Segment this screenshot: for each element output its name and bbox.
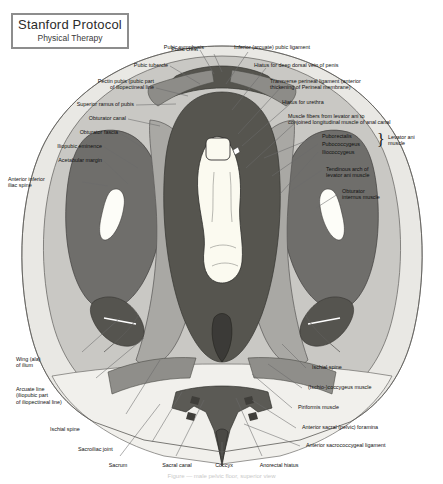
label-anterior-sacrococcygeal-ligament: Anterior sacrococcygeal ligament <box>306 442 442 448</box>
label-ischio-coccygeus-muscle: (Ischio-)coccygeus muscle <box>308 384 432 390</box>
label-anterior-sacral-foramina: Anterior sacral (pelvic) foramina <box>302 424 434 430</box>
levator-ani-brace: } <box>377 132 385 148</box>
label-inferior-arcuate-pubic-ligament: Inferior (arcuate) pubic ligament <box>234 44 394 50</box>
label-transverse-perineal-ligament: Transverse perineal ligament (anterior t… <box>270 78 442 91</box>
label-superior-ramus-of-pubis: Superior ramus of pubis <box>28 101 134 107</box>
label-pubic-tubercle: Pubic tubercle <box>66 62 168 68</box>
pelvic-floor-illustration <box>0 0 443 484</box>
label-anorectal-hiatus: Anorectal hiatus <box>246 462 312 468</box>
brand-title-box: Stanford Protocol Physical Therapy <box>11 13 129 49</box>
label-iliococcygeus: Iliococcygeus <box>322 149 382 155</box>
label-iliopubic-eminence: Iliopubic eminence <box>14 143 102 149</box>
label-muscle-fibers-levator-ani: Muscle fibers from levator ani to conjoi… <box>288 113 442 126</box>
label-puborectalis: Puborectalis <box>322 133 382 139</box>
figure-caption: Figure — male pelvic floor, superior vie… <box>0 473 443 484</box>
label-pectin-pubis: Pectin pubis (pubic part of iliopectinea… <box>44 78 154 91</box>
label-pubic-crest: Pubic crest <box>88 46 198 52</box>
label-obturator-internus-muscle: Obturator internus muscle <box>342 188 440 201</box>
label-acetabular-margin: Acetabular margin <box>14 157 102 163</box>
label-hiatus-urethra: Hiatus for urethra <box>282 99 422 105</box>
figure-canvas: Stanford Protocol Physical Therapy Pubic… <box>0 0 443 484</box>
label-ischial-spine-right: Ischial spine <box>312 364 388 370</box>
label-obturator-canal: Obturator canal <box>42 115 126 121</box>
label-hiatus-deep-dorsal-vein: Hiatus for deep dorsal vein of penis <box>254 62 424 68</box>
label-tendinous-arch: Tendinous arch of levator ani muscle <box>326 166 436 179</box>
brand-title: Stanford Protocol <box>18 18 122 32</box>
label-ischial-spine-left: Ischial spine <box>50 426 120 432</box>
label-levator-ani-muscle: Levator ani muscle <box>388 134 442 147</box>
label-sacrum: Sacrum <box>94 462 142 468</box>
label-sacroiliac-joint: Sacroiliac joint <box>78 446 158 452</box>
label-sacral-canal: Sacral canal <box>148 462 206 468</box>
hiatus-deep-dorsal-vein-shape <box>206 138 230 160</box>
label-wing-ala-of-ilium: Wing (ala) of ilium <box>16 356 86 369</box>
brand-subtitle: Physical Therapy <box>37 33 102 44</box>
label-obturator-fascia: Obturator fascia <box>40 129 118 135</box>
label-arcuate-line: Arcuate line (iliopubic part of iliopect… <box>16 386 102 405</box>
label-piriformis-muscle: Piriformis muscle <box>298 404 402 410</box>
label-coccyx: Coccyx <box>204 462 244 468</box>
label-anterior-inferior-iliac-spine: Anterior inferior iliac spine <box>8 176 88 189</box>
